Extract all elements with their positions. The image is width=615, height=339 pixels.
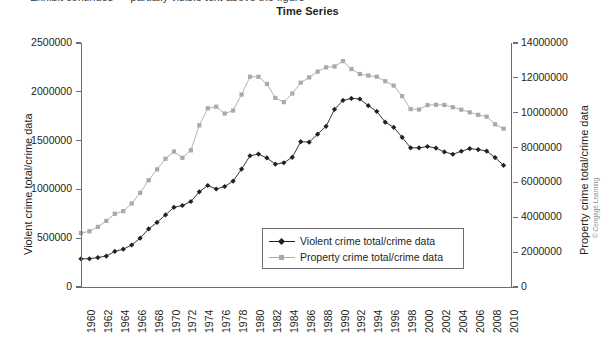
- left-axis-tick: [76, 42, 81, 43]
- right-axis-tick: [513, 147, 518, 148]
- x-axis-tick-label: 1990: [339, 310, 351, 333]
- x-axis-tick-label: 1998: [406, 310, 418, 333]
- left-axis-tick-label: 2000000: [0, 85, 72, 97]
- right-axis-tick: [513, 217, 518, 218]
- data-point: [451, 105, 455, 109]
- data-point: [349, 67, 353, 71]
- legend-item-violent: Violent crime total/crime data: [269, 233, 457, 249]
- left-axis-tick-label: 1000000: [0, 182, 72, 194]
- legend-marker-diamond-icon: [269, 236, 295, 246]
- data-point: [476, 113, 480, 117]
- data-point: [87, 256, 92, 261]
- data-point: [197, 123, 201, 127]
- data-point: [299, 81, 303, 85]
- data-point: [349, 96, 354, 101]
- data-point: [341, 59, 345, 63]
- right-axis-tick: [513, 112, 518, 113]
- data-point: [121, 247, 126, 252]
- data-point: [180, 156, 184, 160]
- right-axis-tick-label: 6000000: [521, 175, 562, 187]
- data-point: [189, 148, 193, 152]
- x-axis-tick-label: 2008: [491, 310, 503, 333]
- data-point: [417, 107, 421, 111]
- chart-title: Time Series: [0, 5, 615, 17]
- data-point: [442, 103, 446, 107]
- data-point: [324, 65, 328, 69]
- data-point: [172, 149, 176, 153]
- left-axis-line: [81, 43, 82, 288]
- data-point: [147, 178, 151, 182]
- data-point: [138, 191, 142, 195]
- left-axis-tick: [76, 238, 81, 239]
- legend-label-violent: Violent crime total/crime data: [300, 235, 435, 247]
- data-point: [95, 255, 100, 260]
- x-axis-tick-label: 1972: [186, 310, 198, 333]
- x-axis-tick-label: 1976: [220, 310, 232, 333]
- data-point: [501, 127, 505, 131]
- data-point: [214, 105, 218, 109]
- data-point: [104, 253, 109, 258]
- right-axis-tick: [513, 182, 518, 183]
- x-axis-tick-label: 1978: [237, 310, 249, 333]
- x-axis-tick-label: 1968: [153, 310, 165, 333]
- right-axis-tick-label: 12000000: [521, 71, 568, 83]
- data-point: [155, 167, 159, 171]
- x-axis-tick-label: 2002: [440, 310, 452, 333]
- right-axis-tick-label: 4000000: [521, 210, 562, 222]
- left-axis-tick: [76, 189, 81, 190]
- data-point: [332, 64, 336, 68]
- data-point: [112, 249, 117, 254]
- x-axis-tick-label: 1996: [389, 310, 401, 333]
- data-point: [290, 91, 294, 95]
- data-point: [130, 201, 134, 205]
- data-point: [468, 110, 472, 114]
- data-point: [214, 186, 219, 191]
- data-point: [231, 108, 235, 112]
- data-point: [459, 108, 463, 112]
- data-point: [281, 160, 286, 165]
- data-point: [400, 94, 404, 98]
- legend-label-property: Property crime total/crime data: [300, 251, 443, 263]
- left-axis-title: Violent crime total/crime data: [22, 113, 34, 255]
- right-axis-title: Property crime total/crime data: [578, 105, 590, 255]
- data-point: [408, 107, 412, 111]
- x-axis-tick-label: 1964: [119, 310, 131, 333]
- x-axis-tick-label: 1960: [85, 310, 97, 333]
- data-point: [290, 155, 295, 160]
- legend-item-property: Property crime total/crime data: [269, 249, 457, 265]
- data-point: [467, 146, 472, 151]
- x-axis-tick-label: 1962: [102, 310, 114, 333]
- data-point: [375, 75, 379, 79]
- data-point: [113, 212, 117, 216]
- data-point: [206, 106, 210, 110]
- data-point: [104, 219, 108, 223]
- data-point: [416, 145, 421, 150]
- data-point: [366, 73, 370, 77]
- data-point: [476, 147, 481, 152]
- right-axis-tick-label: 0: [521, 280, 527, 292]
- x-axis-tick-label: 1994: [372, 310, 384, 333]
- x-axis-tick-label: 2004: [457, 310, 469, 333]
- data-point: [239, 92, 243, 96]
- x-axis-tick-label: 1966: [136, 310, 148, 333]
- data-point: [392, 83, 396, 87]
- series-line-property: [81, 61, 504, 233]
- chart-legend: Violent crime total/crime data Property …: [262, 228, 464, 269]
- data-point: [247, 153, 252, 158]
- data-point: [256, 151, 261, 156]
- data-point: [425, 103, 429, 107]
- x-axis-tick-label: 1970: [170, 310, 182, 333]
- data-point: [163, 157, 167, 161]
- data-point: [307, 75, 311, 79]
- data-point: [222, 184, 227, 189]
- data-point: [256, 75, 260, 79]
- data-point: [450, 152, 455, 157]
- x-axis-tick-label: 1988: [322, 310, 334, 333]
- data-point: [433, 145, 438, 150]
- x-axis-tick-label: 2006: [474, 310, 486, 333]
- right-axis-tick: [513, 77, 518, 78]
- x-axis-tick-label: 1992: [355, 310, 367, 333]
- left-axis-tick: [76, 286, 81, 287]
- x-axis-tick-label: 2010: [508, 310, 520, 333]
- data-point: [121, 209, 125, 213]
